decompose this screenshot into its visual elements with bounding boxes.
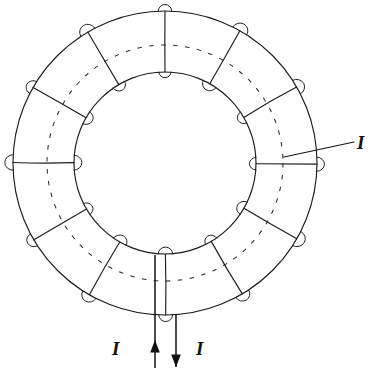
winding-bump-inner — [202, 80, 216, 91]
winding-radial-line — [34, 209, 87, 240]
winding-radial-line — [210, 31, 240, 84]
winding-bump-inner — [74, 155, 82, 170]
winding-bump-outer — [159, 315, 173, 322]
winding-radial-line — [244, 208, 297, 238]
winding-bump-outer — [236, 290, 250, 301]
winding-bump-outer — [317, 157, 324, 171]
label-current-left: I — [112, 339, 119, 358]
winding-bump-inner — [249, 157, 256, 170]
winding-bump-outer — [233, 23, 248, 35]
winding-bump-outer — [80, 24, 95, 36]
winding-radial-line — [13, 162, 74, 163]
inner-circle — [74, 72, 256, 254]
figure-root: I I I — [0, 0, 379, 377]
winding-radial-line — [88, 32, 119, 85]
current-out-arrow-head — [171, 355, 181, 368]
torus-diagram-canvas — [0, 0, 379, 377]
winding-bump-inner — [158, 247, 173, 254]
leader-line — [284, 142, 354, 157]
winding-turns-group — [5, 5, 325, 322]
winding-radial-line — [89, 242, 119, 295]
winding-radial-line — [165, 254, 166, 315]
winding-radial-line — [211, 241, 242, 294]
winding-bump-outer — [82, 291, 96, 302]
winding-bump-inner — [205, 235, 217, 245]
winding-bump-inner — [159, 72, 171, 78]
leader-line-group — [284, 142, 354, 157]
dashed-mid-circle — [47, 45, 283, 281]
winding-bump-outer — [5, 155, 13, 171]
current-in-arrow-head — [150, 340, 160, 353]
winding-bump-inner — [113, 235, 127, 246]
label-current-right: I — [357, 133, 364, 152]
winding-radial-line — [33, 87, 86, 117]
label-current-bottom-right: I — [196, 339, 203, 358]
winding-bump-outer — [158, 5, 172, 11]
winding-bump-inner — [113, 81, 126, 91]
winding-radial-line — [244, 87, 297, 118]
